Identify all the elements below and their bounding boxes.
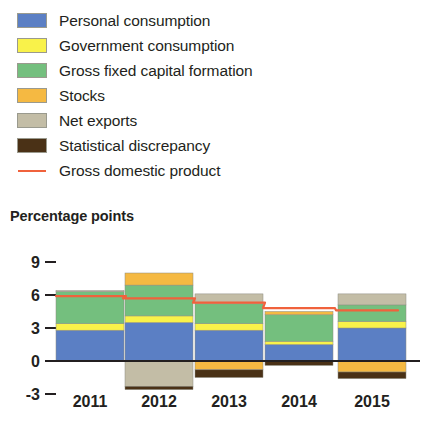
legend-line-marker-gross_domestic_product: [17, 163, 47, 178]
y-tick-label-6: 6: [31, 287, 40, 304]
bar-segment-2015-personal-consumption: [338, 328, 406, 361]
legend-item-government_consumption[interactable]: Government consumption: [17, 33, 407, 58]
legend-swatch-net_exports: [17, 113, 47, 128]
bar-segment-2015-statistical-discrepancy: [338, 372, 406, 379]
legend-item-statistical_discrepancy[interactable]: Statistical discrepancy: [17, 133, 407, 158]
bar-segment-2013-government-consumption: [195, 324, 263, 331]
legend-item-personal_consumption[interactable]: Personal consumption: [17, 8, 407, 33]
legend-label-stocks: Stocks: [59, 88, 105, 104]
x-tick-label-2011: 2011: [73, 393, 108, 410]
y-tick-label-3: 3: [31, 320, 40, 337]
legend-item-stocks[interactable]: Stocks: [17, 83, 407, 108]
bar-group-2013: [195, 294, 263, 378]
legend-label-gross_domestic_product: Gross domestic product: [59, 163, 220, 179]
bar-segment-2012-gross-fixed-capital-formation: [125, 285, 193, 316]
bar-segment-2012-government-consumption: [125, 316, 193, 323]
chart-legend: Personal consumptionGovernment consumpti…: [17, 8, 407, 183]
bar-segment-2015-government-consumption: [338, 321, 406, 328]
legend-item-net_exports[interactable]: Net exports: [17, 108, 407, 133]
chart-plot-area: 9630-320112012201320142015: [0, 232, 423, 422]
y-tick-label--3: -3: [26, 386, 40, 403]
bar-segment-2013-personal-consumption: [195, 330, 263, 361]
x-tick-label-2012: 2012: [141, 393, 177, 410]
bar-segment-2014-personal-consumption: [265, 345, 333, 362]
x-tick-label-2015: 2015: [354, 393, 390, 410]
legend-swatch-government_consumption: [17, 38, 47, 53]
bar-segment-2015-gross-fixed-capital-formation: [338, 305, 406, 322]
bar-group-2015: [338, 294, 406, 379]
bar-segment-2011-government-consumption: [56, 324, 124, 331]
legend-label-net_exports: Net exports: [59, 113, 137, 129]
legend-swatch-stocks: [17, 88, 47, 103]
bar-segment-2014-gross-fixed-capital-formation: [265, 315, 333, 341]
legend-swatch-gross_fixed_capital_formation: [17, 63, 47, 78]
legend-item-gross_domestic_product[interactable]: Gross domestic product: [17, 158, 407, 183]
legend-label-statistical_discrepancy: Statistical discrepancy: [59, 138, 210, 154]
bar-segment-2013-stocks: [195, 361, 263, 370]
bar-segment-2013-gross-fixed-capital-formation: [195, 304, 263, 324]
bar-segment-2012-net-exports: [125, 361, 193, 386]
bar-segment-2011-net-exports: [56, 291, 124, 292]
y-tick-label-9: 9: [31, 254, 40, 271]
y-tick-label-0: 0: [31, 353, 40, 370]
chart-svg: 9630-320112012201320142015: [0, 232, 423, 422]
y-axis-title: Percentage points: [10, 208, 134, 224]
bar-segment-2015-net-exports: [338, 294, 406, 305]
legend-item-gross_fixed_capital_formation[interactable]: Gross fixed capital formation: [17, 58, 407, 83]
bar-segment-2014-stocks: [265, 312, 333, 315]
legend-label-government_consumption: Government consumption: [59, 38, 234, 54]
bar-group-2014: [265, 312, 333, 366]
x-tick-label-2013: 2013: [211, 393, 247, 410]
bar-segment-2014-government-consumption: [265, 341, 333, 344]
bar-segment-2011-personal-consumption: [56, 330, 124, 361]
bar-segment-2015-stocks: [338, 361, 406, 372]
bar-group-2011: [56, 291, 124, 361]
bar-group-2012: [125, 273, 193, 390]
bar-segment-2012-personal-consumption: [125, 323, 193, 362]
bar-segment-2012-stocks: [125, 273, 193, 285]
x-tick-label-2014: 2014: [281, 393, 317, 410]
legend-label-gross_fixed_capital_formation: Gross fixed capital formation: [59, 63, 253, 79]
bar-segment-2013-statistical-discrepancy: [195, 370, 263, 378]
bar-segment-2012-statistical-discrepancy: [125, 386, 193, 389]
legend-label-personal_consumption: Personal consumption: [59, 13, 210, 29]
legend-swatch-statistical_discrepancy: [17, 138, 47, 153]
legend-swatch-personal_consumption: [17, 13, 47, 28]
